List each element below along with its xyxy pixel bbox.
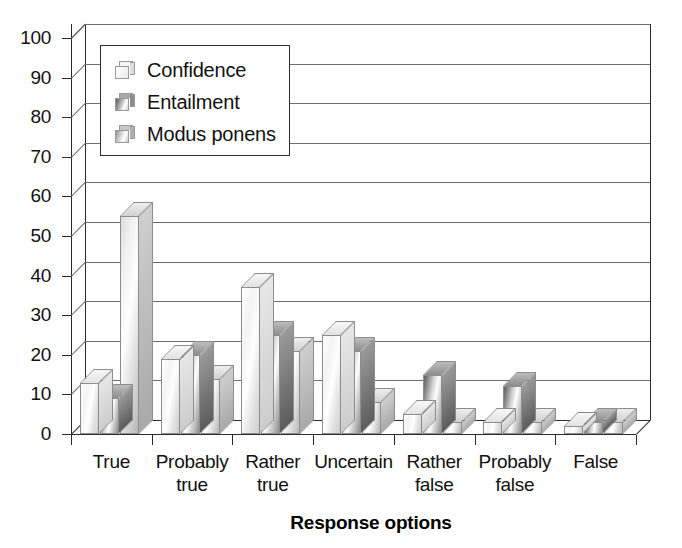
plot-floor-front-edge bbox=[71, 434, 636, 435]
bar-face bbox=[483, 422, 502, 434]
y-tick-label: 100 bbox=[3, 28, 51, 47]
bar-side bbox=[200, 341, 214, 434]
y-axis-line bbox=[71, 24, 72, 434]
bar-side bbox=[341, 321, 355, 434]
legend-item-modus-ponens[interactable]: Modus ponens bbox=[115, 118, 275, 150]
x-tick-label-line: False bbox=[547, 450, 644, 473]
bar-side bbox=[260, 273, 274, 434]
grid-line bbox=[85, 182, 650, 183]
x-tick-mark bbox=[555, 435, 556, 445]
y-tick-label: 60 bbox=[3, 186, 51, 205]
legend-swatch-side bbox=[130, 94, 135, 107]
x-tick-mark bbox=[475, 435, 476, 445]
y-tick-mark bbox=[62, 196, 71, 197]
y-tick-mark bbox=[62, 394, 71, 395]
plot-right-edge bbox=[650, 24, 651, 420]
x-tick-mark bbox=[71, 435, 72, 445]
y-tick-label: 20 bbox=[3, 345, 51, 364]
legend-label: Entailment bbox=[147, 91, 240, 113]
bar-face bbox=[161, 359, 180, 434]
y-tick-label: 40 bbox=[3, 266, 51, 285]
y-tick-mark bbox=[62, 157, 71, 158]
y-tick-label: 90 bbox=[3, 68, 51, 87]
bar-chart: 1009080706050403020100 TrueProbablytrueR… bbox=[0, 0, 682, 548]
bar-confidence-false bbox=[564, 426, 583, 434]
x-axis-title: Response options bbox=[0, 512, 682, 534]
grid-line bbox=[85, 24, 650, 25]
bar-side bbox=[139, 202, 153, 434]
bar-confidence-true bbox=[80, 383, 99, 434]
y-tick-label: 80 bbox=[3, 107, 51, 126]
grid-depth-connector bbox=[71, 301, 86, 316]
bar-face bbox=[403, 414, 422, 434]
x-tick-mark bbox=[232, 435, 233, 445]
legend-swatch-side bbox=[130, 126, 135, 139]
y-tick-mark bbox=[62, 117, 71, 118]
bar-face bbox=[80, 383, 99, 434]
x-tick-label: False bbox=[547, 450, 644, 473]
x-tick-mark bbox=[394, 435, 395, 445]
legend-swatch-icon bbox=[115, 125, 135, 143]
bar-side bbox=[300, 337, 314, 434]
legend-swatch-face bbox=[115, 66, 129, 79]
y-tick-mark bbox=[62, 236, 71, 237]
legend-swatch-icon bbox=[115, 61, 135, 79]
bar-face bbox=[241, 287, 260, 434]
grid-line bbox=[85, 262, 650, 263]
bar-face bbox=[564, 426, 583, 434]
bar-face bbox=[322, 335, 341, 434]
y-tick-mark bbox=[62, 315, 71, 316]
y-tick-label: 0 bbox=[3, 424, 51, 443]
y-tick-label: 30 bbox=[3, 305, 51, 324]
y-tick-mark bbox=[62, 355, 71, 356]
grid-line bbox=[85, 301, 650, 302]
y-tick-mark bbox=[62, 78, 71, 79]
bar-confidence-probably-true bbox=[161, 359, 180, 434]
grid-depth-connector bbox=[71, 341, 86, 356]
y-tick-label: 10 bbox=[3, 384, 51, 403]
legend-swatch-icon bbox=[115, 93, 135, 111]
legend-label: Confidence bbox=[147, 59, 246, 81]
legend-label: Modus ponens bbox=[147, 123, 276, 145]
bar-confidence-probably-false bbox=[483, 422, 502, 434]
bar-confidence-uncertain bbox=[322, 335, 341, 434]
grid-depth-connector bbox=[71, 262, 86, 277]
y-tick-label: 50 bbox=[3, 226, 51, 245]
x-tick-mark bbox=[152, 435, 153, 445]
legend-swatch-side bbox=[130, 62, 135, 75]
y-tick-label: 70 bbox=[3, 147, 51, 166]
grid-depth-connector bbox=[71, 103, 86, 118]
legend-item-confidence[interactable]: Confidence bbox=[115, 54, 275, 86]
x-tick-mark bbox=[313, 435, 314, 445]
grid-depth-connector bbox=[71, 182, 86, 197]
legend-item-entailment[interactable]: Entailment bbox=[115, 86, 275, 118]
grid-depth-connector bbox=[71, 64, 86, 79]
y-tick-mark bbox=[62, 276, 71, 277]
bar-confidence-rather-false bbox=[403, 414, 422, 434]
y-tick-mark bbox=[62, 38, 71, 39]
bar-side bbox=[361, 337, 375, 434]
grid-depth-connector bbox=[71, 222, 86, 237]
bar-side bbox=[280, 321, 294, 434]
legend-swatch-face bbox=[115, 98, 129, 111]
x-tick-mark bbox=[636, 435, 637, 445]
grid-depth-connector bbox=[71, 143, 86, 158]
bar-confidence-rather-true bbox=[241, 287, 260, 434]
legend-swatch-face bbox=[115, 130, 129, 143]
y-tick-mark bbox=[62, 434, 71, 435]
x-tick-label-line: false bbox=[467, 473, 564, 496]
depth-edge bbox=[636, 420, 651, 435]
x-tick-label-line: true bbox=[224, 473, 321, 496]
grid-line bbox=[85, 222, 650, 223]
chart-legend: ConfidenceEntailmentModus ponens bbox=[100, 45, 290, 156]
bar-side bbox=[180, 345, 194, 434]
grid-depth-connector bbox=[71, 24, 86, 39]
